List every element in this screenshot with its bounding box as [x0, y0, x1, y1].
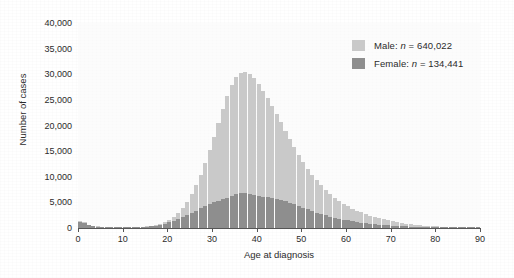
bar-female-age-58 — [337, 219, 341, 228]
x-tick-20: 20 — [162, 234, 172, 244]
bar-female-age-21 — [172, 221, 176, 228]
x-tick-mark-0 — [78, 228, 79, 232]
x-tick-mark-50 — [301, 228, 302, 232]
legend-label-female: Female: n = 134,441 — [374, 58, 463, 69]
y-tick-30000: 30,000 — [44, 69, 72, 79]
bar-female-age-50 — [301, 208, 305, 228]
x-tick-mark-70 — [391, 228, 392, 232]
x-tick-mark-20 — [167, 228, 168, 232]
legend-item-male: Male: n = 640,022 — [352, 40, 463, 51]
x-axis-title: Age at diagnosis — [78, 249, 480, 260]
male-swatch-icon — [352, 40, 365, 51]
bar-female-age-36 — [239, 193, 243, 228]
x-tick-0: 0 — [75, 234, 80, 244]
x-tick-80: 80 — [430, 234, 440, 244]
bar-female-age-54 — [319, 214, 323, 228]
x-tick-mark-80 — [435, 228, 436, 232]
bar-female-age-26 — [194, 211, 198, 228]
y-tick-20000: 20,000 — [44, 121, 72, 131]
x-tick-mark-90 — [480, 228, 481, 232]
legend-label-male: Male: n = 640,022 — [374, 40, 452, 51]
bar-female-age-55 — [324, 215, 328, 228]
bar-female-age-29 — [208, 204, 212, 228]
bar-female-age-25 — [190, 213, 194, 228]
y-tick-40000: 40,000 — [44, 18, 72, 28]
bar-female-age-53 — [315, 213, 319, 228]
bar-female-age-23 — [181, 217, 185, 228]
y-tick-10000: 10,000 — [44, 172, 72, 182]
bar-female-age-31 — [216, 201, 220, 228]
bar-female-age-57 — [333, 218, 337, 228]
x-tick-mark-30 — [212, 228, 213, 232]
bar-female-age-48 — [292, 204, 296, 228]
x-tick-mark-60 — [346, 228, 347, 232]
y-tick-35000: 35,000 — [44, 44, 72, 54]
bar-female-age-39 — [252, 195, 256, 228]
y-tick-15000: 15,000 — [44, 146, 72, 156]
bar-female-age-46 — [283, 201, 287, 228]
bar-female-age-28 — [203, 206, 207, 228]
bar-female-age-43 — [270, 198, 274, 228]
bar-female-age-47 — [288, 203, 292, 228]
bar-female-age-38 — [248, 194, 252, 228]
y-axis-tick-labels: 05,00010,00015,00020,00025,00030,00035,0… — [0, 0, 72, 278]
bar-female-age-34 — [230, 196, 234, 228]
bar-female-age-35 — [234, 194, 238, 228]
bar-female-age-41 — [261, 197, 265, 228]
x-tick-50: 50 — [296, 234, 306, 244]
bar-female-age-44 — [275, 199, 279, 228]
y-tick-0: 0 — [67, 223, 72, 233]
x-tick-60: 60 — [341, 234, 351, 244]
legend-item-female: Female: n = 134,441 — [352, 58, 463, 69]
bar-female-age-33 — [225, 198, 229, 228]
bar-female-age-32 — [221, 199, 225, 228]
bar-female-age-42 — [266, 197, 270, 228]
x-tick-40: 40 — [252, 234, 262, 244]
chart-legend: Male: n = 640,022 Female: n = 134,441 — [352, 40, 463, 76]
x-tick-90: 90 — [475, 234, 485, 244]
bar-female-age-56 — [328, 217, 332, 228]
female-swatch-icon — [352, 58, 365, 69]
bar-female-age-59 — [342, 220, 346, 228]
x-tick-10: 10 — [118, 234, 128, 244]
bar-female-age-61 — [350, 221, 354, 228]
figure-canvas: Number of cases 05,00010,00015,00020,000… — [0, 0, 514, 278]
x-axis-line — [78, 228, 480, 229]
x-tick-mark-10 — [123, 228, 124, 232]
y-tick-5000: 5,000 — [49, 197, 72, 207]
y-tick-25000: 25,000 — [44, 95, 72, 105]
bar-female-age-51 — [306, 209, 310, 228]
x-tick-30: 30 — [207, 234, 217, 244]
bar-female-age-40 — [257, 196, 261, 228]
bar-female-age-24 — [185, 215, 189, 228]
bar-female-age-49 — [297, 206, 301, 228]
bar-female-age-27 — [199, 208, 203, 228]
x-tick-70: 70 — [386, 234, 396, 244]
x-tick-mark-40 — [257, 228, 258, 232]
